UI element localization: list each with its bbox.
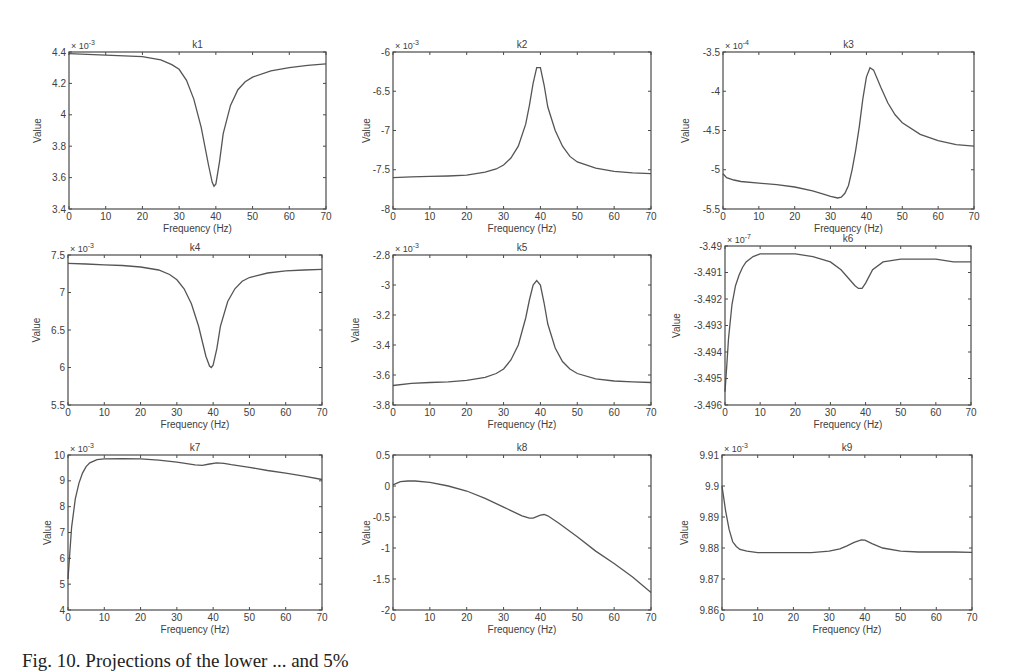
chart-title: k6 [843, 233, 854, 244]
chart-k7: 01020304050607045678910× 10-3k7Frequency… [68, 455, 322, 610]
x-tick-label: 30 [171, 612, 183, 623]
y-tick-label: -3.4 [373, 340, 391, 351]
x-tick-label: 30 [824, 612, 836, 623]
y-axis-label: Value [361, 520, 372, 545]
x-tick-label: 0 [390, 407, 396, 418]
y-tick-label: -3.492 [694, 294, 723, 305]
y-tick-label: 4.4 [52, 47, 66, 58]
chart-k9: 0102030405060709.869.879.889.899.99.91× … [722, 455, 972, 610]
y-tick-label: -3.491 [694, 267, 723, 278]
y-tick-label: 5.5 [51, 400, 65, 411]
y-tick-label: -3.49 [699, 241, 722, 252]
x-tick-label: 10 [752, 612, 764, 623]
y-tick-label: 6.5 [51, 325, 65, 336]
x-tick-label: 10 [99, 407, 111, 418]
x-tick-label: 20 [137, 211, 149, 222]
y-tick-label: -4.5 [703, 125, 721, 136]
chart-title: k8 [517, 442, 528, 453]
y-tick-label: 7 [59, 527, 65, 538]
axis-multiplier: × 10-3 [71, 39, 95, 51]
y-tick-label: -2.8 [373, 250, 391, 261]
y-tick-label: -4 [711, 86, 720, 97]
x-tick-label: 10 [424, 407, 436, 418]
y-tick-label: 7.5 [51, 250, 65, 261]
y-tick-label: 8 [59, 501, 65, 512]
data-line [68, 459, 322, 579]
x-tick-label: 30 [174, 211, 186, 222]
y-axis-label: Value [679, 520, 690, 545]
x-tick-label: 0 [722, 407, 728, 418]
x-tick-label: 0 [719, 612, 725, 623]
chart-title: k2 [517, 39, 528, 50]
y-tick-label: 0.5 [376, 450, 390, 461]
x-tick-label: 70 [645, 612, 657, 623]
axes-frame [393, 455, 651, 610]
x-tick-label: 50 [895, 407, 907, 418]
chart-title: k7 [190, 442, 201, 453]
x-tick-label: 60 [609, 211, 621, 222]
x-axis-label: Frequency (Hz) [813, 624, 882, 635]
x-tick-label: 0 [720, 211, 726, 222]
x-tick-label: 20 [461, 407, 473, 418]
x-tick-label: 70 [645, 407, 657, 418]
axes-frame [69, 52, 326, 209]
x-tick-label: 40 [208, 407, 220, 418]
chart-k3: 010203040506070-5.5-5-4.5-4-3.5× 10-4k3F… [723, 52, 974, 209]
x-tick-label: 60 [280, 407, 292, 418]
y-tick-label: -5 [711, 164, 720, 175]
x-tick-label: 70 [965, 407, 977, 418]
x-tick-label: 30 [171, 407, 183, 418]
x-axis-label: Frequency (Hz) [161, 624, 230, 635]
x-axis-label: Frequency (Hz) [814, 419, 883, 430]
y-tick-label: -0.5 [373, 512, 391, 523]
x-tick-label: 50 [247, 211, 259, 222]
y-tick-label: -3.8 [373, 400, 391, 411]
x-tick-label: 30 [825, 407, 837, 418]
data-line [723, 68, 974, 198]
y-tick-label: -8 [381, 204, 390, 215]
data-line [725, 254, 971, 392]
x-tick-label: 20 [135, 612, 147, 623]
x-tick-label: 20 [789, 211, 801, 222]
chart-title: k1 [192, 39, 203, 50]
chart-title: k4 [190, 242, 201, 253]
x-tick-label: 60 [280, 612, 292, 623]
y-axis-label: Value [680, 118, 691, 143]
x-tick-label: 40 [535, 407, 547, 418]
x-tick-label: 20 [135, 407, 147, 418]
x-tick-label: 60 [930, 407, 942, 418]
figure-caption: Fig. 10. Projections of the lower ... an… [22, 650, 349, 672]
data-line [393, 481, 651, 593]
y-axis-label: Value [671, 313, 682, 338]
x-axis-label: Frequency (Hz) [488, 624, 557, 635]
chart-title: k9 [842, 442, 853, 453]
x-tick-label: 10 [753, 211, 765, 222]
x-tick-label: 50 [572, 211, 584, 222]
y-tick-label: 0 [384, 481, 390, 492]
y-axis-label: Value [361, 118, 372, 143]
y-tick-label: -3.496 [694, 400, 723, 411]
y-tick-label: -2 [381, 605, 390, 616]
x-tick-label: 50 [895, 612, 907, 623]
data-line [68, 263, 322, 367]
x-tick-label: 0 [65, 407, 71, 418]
x-tick-label: 30 [498, 407, 510, 418]
y-tick-label: -3.5 [703, 47, 721, 58]
x-tick-label: 50 [244, 407, 256, 418]
chart-k6: 010203040506070-3.496-3.495-3.494-3.493-… [725, 246, 971, 405]
x-tick-label: 0 [65, 612, 71, 623]
y-axis-label: Value [42, 520, 53, 545]
chart-title: k5 [517, 242, 528, 253]
chart-k8: 010203040506070-2-1.5-1-0.500.5k8Frequen… [393, 455, 651, 610]
x-axis-label: Frequency (Hz) [488, 223, 557, 234]
x-tick-label: 20 [461, 211, 473, 222]
x-tick-label: 10 [99, 612, 111, 623]
y-tick-label: -3.495 [694, 373, 723, 384]
x-tick-label: 50 [897, 211, 909, 222]
data-line [722, 486, 972, 553]
y-tick-label: -1.5 [373, 574, 391, 585]
chart-title: k3 [843, 39, 854, 50]
y-tick-label: 10 [54, 450, 66, 461]
x-tick-label: 50 [572, 407, 584, 418]
axes-frame [722, 455, 972, 610]
